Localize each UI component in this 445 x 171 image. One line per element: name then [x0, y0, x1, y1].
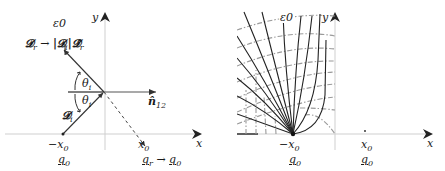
- right-source-position: −x0: [279, 139, 300, 154]
- left-panel: [5, 12, 202, 150]
- right-source-charge: q0: [289, 154, 301, 169]
- source-point: [62, 133, 65, 136]
- right-image-point: [364, 130, 366, 132]
- right-medium-label: ε0: [279, 12, 294, 23]
- normal-label: n̂12: [148, 96, 166, 111]
- right-image-charge: q0: [361, 154, 373, 169]
- left-x-axis-label: x: [196, 138, 202, 149]
- left-source-charge: q0: [58, 154, 70, 169]
- right-source-point: [291, 132, 295, 136]
- left-source-position: −x0: [48, 139, 69, 154]
- angle-upper-label: θi: [82, 78, 91, 93]
- left-image-charge: qr → q0: [142, 154, 181, 169]
- angle-lower-label: θi: [82, 95, 91, 110]
- left-y-axis-label: y: [92, 12, 98, 23]
- angle-arc-lower: [75, 94, 80, 112]
- right-y-axis-label: y: [322, 12, 328, 23]
- right-image-position: x0: [361, 139, 372, 154]
- incident-field-label: 𝓓i: [62, 110, 73, 125]
- angle-arc-upper: [75, 72, 80, 90]
- right-panel: [237, 12, 433, 150]
- right-x-axis-label: x: [427, 138, 433, 149]
- left-medium-label: ε0: [53, 18, 66, 29]
- reflected-field-label: 𝓓r → |𝓓i|𝓓̂r: [25, 38, 83, 53]
- left-image-position: x0: [138, 139, 149, 154]
- field-lines: [237, 12, 326, 134]
